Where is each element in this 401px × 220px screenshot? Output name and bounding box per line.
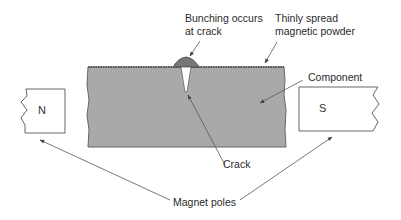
powder-label-line2: magnetic powder xyxy=(275,26,355,37)
magnet-poles-label: Magnet poles xyxy=(173,197,236,208)
component-label: Component xyxy=(308,72,362,83)
crack-label: Crack xyxy=(223,159,250,170)
powder-label-line1: Thinly spread xyxy=(275,13,338,24)
bunching-label-line2: at crack xyxy=(185,26,222,37)
south-pole-block xyxy=(299,87,379,131)
diagram-canvas: Bunching occurs at crack Thinly spread m… xyxy=(0,0,401,220)
magnetic-powder-layer xyxy=(88,57,284,67)
north-pole-label: N xyxy=(38,104,46,116)
bunching-label-line1: Bunching occurs xyxy=(185,13,263,24)
south-pole-label: S xyxy=(319,102,326,114)
